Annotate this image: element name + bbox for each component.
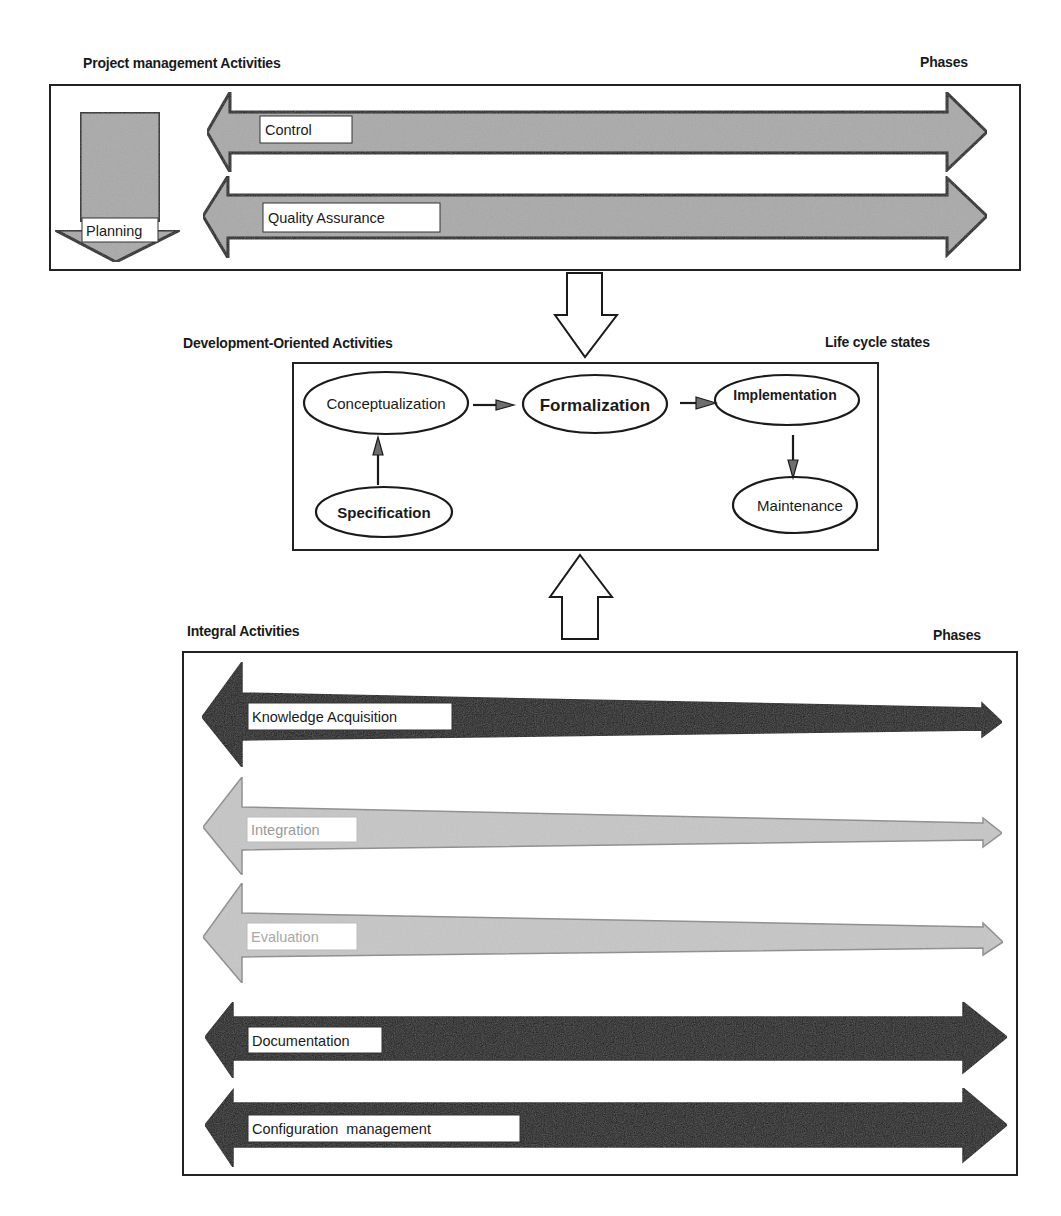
knowledge-acquisition-arrow: Knowledge Acquisition xyxy=(202,662,1002,767)
planning-label: Planning xyxy=(86,223,142,239)
quality-assurance-label: Quality Assurance xyxy=(268,210,385,226)
flow-specification-to-conceptualization xyxy=(373,437,383,485)
integration-arrow: Integration xyxy=(203,777,1002,875)
documentation-label: Documentation xyxy=(252,1033,350,1049)
implementation-label: Implementation xyxy=(733,387,836,403)
life-cycle-states-label: Life cycle states xyxy=(825,334,930,350)
node-maintenance: Maintenance xyxy=(733,477,857,533)
control-arrow: Control xyxy=(207,92,987,172)
arrowhead-right-icon xyxy=(696,397,716,409)
quality-assurance-arrow: Quality Assurance xyxy=(203,176,987,258)
arrowhead-down-icon xyxy=(788,460,798,478)
configuration-management-arrow: Configuration management xyxy=(205,1088,1007,1167)
development-title: Development-Oriented Activities xyxy=(183,335,393,351)
node-specification: Specification xyxy=(316,487,452,537)
flow-formalization-to-implementation xyxy=(680,397,716,409)
flow-conceptualization-to-formalization xyxy=(473,400,514,410)
process-model-diagram: Project management Activities Phases Pla… xyxy=(0,0,1061,1216)
planning-arrow-shaft xyxy=(80,112,160,222)
integral-section: Integral Activities Phases Knowledge Acq… xyxy=(183,623,1017,1175)
evaluation-label: Evaluation xyxy=(251,929,319,945)
flow-implementation-to-maintenance xyxy=(788,435,798,478)
maintenance-label: Maintenance xyxy=(757,497,843,514)
project-management-title: Project management Activities xyxy=(83,55,281,71)
node-implementation: Implementation xyxy=(715,375,859,425)
specification-label: Specification xyxy=(337,504,430,521)
phases-label-top: Phases xyxy=(920,54,968,70)
conceptualization-label: Conceptualization xyxy=(326,395,445,412)
phases-label-bottom: Phases xyxy=(933,627,981,643)
documentation-arrow: Documentation xyxy=(205,1002,1007,1078)
hollow-down-arrow-icon xyxy=(555,273,617,357)
integral-title: Integral Activities xyxy=(187,623,300,639)
configuration-management-label: Configuration management xyxy=(252,1121,431,1137)
node-conceptualization: Conceptualization xyxy=(304,372,468,434)
control-label: Control xyxy=(265,122,312,138)
node-formalization: Formalization xyxy=(523,375,667,433)
project-management-section: Project management Activities Phases Pla… xyxy=(50,54,1020,270)
formalization-label: Formalization xyxy=(540,396,651,415)
development-section: Development-Oriented Activities Life cyc… xyxy=(183,334,930,550)
hollow-up-arrow-icon xyxy=(550,555,612,639)
integration-label: Integration xyxy=(251,822,320,838)
evaluation-arrow: Evaluation xyxy=(203,883,1003,983)
knowledge-acquisition-label: Knowledge Acquisition xyxy=(252,709,397,725)
arrowhead-up-icon xyxy=(373,437,383,455)
arrowhead-right-icon xyxy=(496,400,514,410)
planning-arrow: Planning xyxy=(55,112,180,262)
